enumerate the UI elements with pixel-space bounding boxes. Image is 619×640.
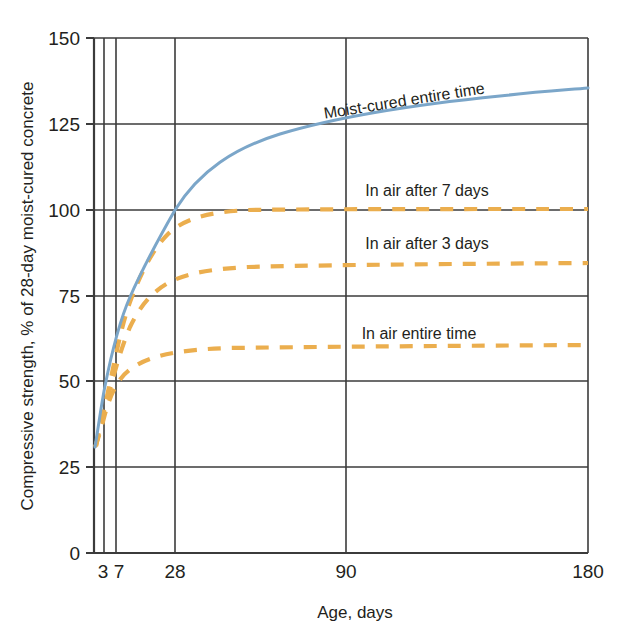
series-label-in-air-after-7-days: In air after 7 days — [365, 182, 489, 199]
series-label-in-air-after-3-days: In air after 3 days — [365, 235, 489, 252]
ytick-label-25: 25 — [59, 457, 80, 478]
chart-figure: 150 125 100 75 50 25 0 3 7 28 90 180 Age… — [0, 0, 619, 640]
ytick-label-0: 0 — [69, 543, 80, 564]
xtick-label-180: 180 — [572, 561, 604, 582]
ytick-label-50: 50 — [59, 371, 80, 392]
y-axis-title: Compressive strength, % of 28-day moist-… — [18, 82, 37, 511]
ytick-label-150: 150 — [48, 28, 80, 49]
xtick-label-28: 28 — [164, 561, 185, 582]
xtick-label-90: 90 — [335, 561, 356, 582]
compressive-strength-chart: 150 125 100 75 50 25 0 3 7 28 90 180 Age… — [0, 0, 619, 640]
xtick-label-7: 7 — [114, 561, 125, 582]
series-label-in-air-entire-time: In air entire time — [362, 325, 477, 342]
ytick-label-75: 75 — [59, 286, 80, 307]
xtick-label-3: 3 — [98, 561, 109, 582]
x-axis-title: Age, days — [317, 603, 393, 622]
ytick-label-125: 125 — [48, 114, 80, 135]
ytick-label-100: 100 — [48, 200, 80, 221]
y-tick-marks — [86, 38, 94, 553]
